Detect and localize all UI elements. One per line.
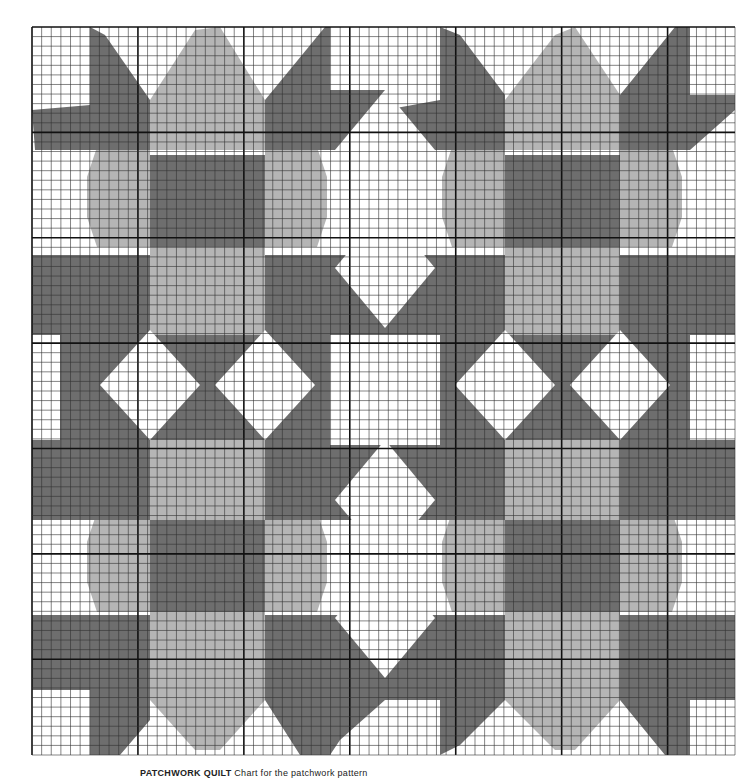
light-petal	[442, 147, 505, 247]
caption-label: PATCHWORK QUILT	[140, 768, 232, 778]
chart-caption: PATCHWORK QUILT Chart for the patchwork …	[140, 768, 368, 778]
light-band	[505, 440, 620, 520]
dark-square	[150, 155, 265, 250]
white-square	[330, 335, 440, 445]
light-band	[150, 440, 265, 520]
dark-square	[150, 520, 265, 615]
dark-square	[505, 155, 620, 250]
dark-star	[265, 27, 330, 150]
light-petal	[150, 615, 265, 750]
white-corner	[32, 700, 85, 755]
light-petal	[150, 27, 265, 150]
light-petal	[265, 512, 327, 612]
light-petal	[442, 512, 505, 612]
light-petal	[505, 615, 620, 750]
white-corner	[695, 705, 735, 755]
caption-text: Chart for the patchwork pattern	[234, 768, 367, 778]
dark-square	[505, 520, 620, 615]
light-petal	[265, 147, 327, 247]
light-petal	[505, 27, 620, 150]
dark-band	[32, 440, 150, 520]
white-edge	[32, 335, 60, 440]
pattern-chart	[0, 0, 739, 780]
